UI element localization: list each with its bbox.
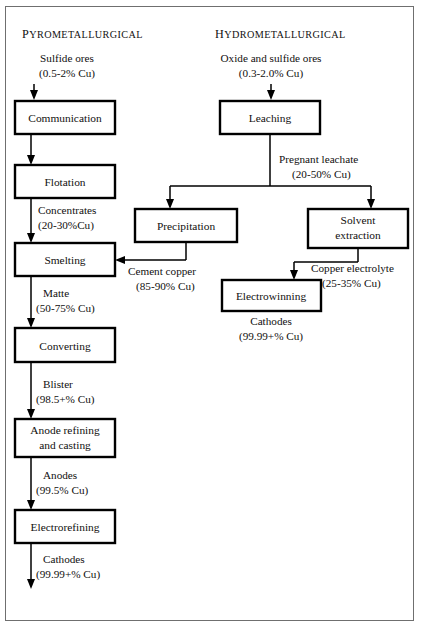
stream-cement-copper-line2: (85-90% Cu) <box>136 280 195 293</box>
arrow-feed-to-leaching <box>267 84 275 100</box>
stream-cement-copper-line1: Cement copper <box>128 265 196 277</box>
stream-blister-line1: Blister <box>43 378 73 390</box>
arrow-communication-to-flotation <box>27 134 35 165</box>
arrow-smelting-to-converting <box>27 276 35 328</box>
process-flow-diagram: PYROMETALLURGICAL HYDROMETALLURGICAL Sul… <box>0 0 421 638</box>
feed-hydro-line2: (0.3-2.0% Cu) <box>239 67 304 80</box>
stream-copper-electrolyte-line2: (25-35% Cu) <box>322 277 381 290</box>
node-smelting-label: Smelting <box>44 254 85 266</box>
node-flotation-label: Flotation <box>44 176 85 188</box>
arrow-converting-to-anode-refining <box>27 362 35 419</box>
node-anode-refining-label-line1: Anode refining <box>30 424 100 436</box>
stream-anodes-line1: Anodes <box>43 469 77 481</box>
stream-pregnant-leachate-line2: (20-50% Cu) <box>292 168 351 181</box>
stream-cathodes-pyro-line2: (99.99+% Cu) <box>36 568 100 581</box>
column-heading-hydro-rest: YDROMETALLURGICAL <box>224 29 345 40</box>
stream-blister-line2: (98.5+% Cu) <box>36 393 95 406</box>
column-heading-pyro-initial: P <box>22 27 29 41</box>
connector-precipitation-to-smelting <box>115 242 186 264</box>
stream-matte-line2: (50-75% Cu) <box>36 302 95 315</box>
stream-cathodes-hydro-line1: Cathodes <box>250 315 292 327</box>
feed-pyro-line2: (0.5-2% Cu) <box>39 67 95 80</box>
node-converting-label: Converting <box>39 340 91 352</box>
column-heading-pyrometallurgical: PYROMETALLURGICAL <box>22 27 143 41</box>
stream-matte-line1: Matte <box>43 287 69 299</box>
stream-copper-electrolyte-line1: Copper electrolyte <box>311 262 394 274</box>
stream-cathodes-hydro-line2: (99.99+% Cu) <box>239 330 303 343</box>
node-solvent-extraction-label-line1: Solvent <box>341 214 377 226</box>
node-electrorefining-label: Electrorefining <box>31 521 100 533</box>
node-leaching-label: Leaching <box>249 112 292 124</box>
node-anode-refining-label-line2: and casting <box>39 439 91 451</box>
feed-pyro-line1: Sulfide ores <box>40 52 94 64</box>
arrow-electrorefining-output <box>27 543 35 589</box>
node-communication-label: Communication <box>28 112 102 124</box>
node-solvent-extraction-label-line2: extraction <box>335 229 381 241</box>
stream-cathodes-pyro-line1: Cathodes <box>43 553 85 565</box>
arrow-anode-refining-to-electrorefining <box>27 457 35 510</box>
figure-page: PYROMETALLURGICAL HYDROMETALLURGICAL Sul… <box>0 0 421 638</box>
stream-anodes-line2: (99.5% Cu) <box>36 484 88 497</box>
arrow-flotation-to-smelting <box>27 198 35 243</box>
feed-hydro-line1: Oxide and sulfide ores <box>221 52 322 64</box>
column-heading-pyro-rest: YROMETALLURGICAL <box>29 29 143 40</box>
node-electrowinning-label: Electrowinning <box>236 290 307 302</box>
column-heading-hydrometallurgical: HYDROMETALLURGICAL <box>215 27 346 41</box>
stream-concentrates-line2: (20-30%Cu) <box>38 219 94 232</box>
stream-pregnant-leachate-line1: Pregnant leachate <box>279 153 358 165</box>
column-heading-hydro-initial: H <box>215 27 224 41</box>
stream-concentrates-line1: Concentrates <box>38 204 96 216</box>
arrow-feed-to-communication <box>30 84 38 100</box>
node-precipitation-label: Precipitation <box>157 220 216 232</box>
